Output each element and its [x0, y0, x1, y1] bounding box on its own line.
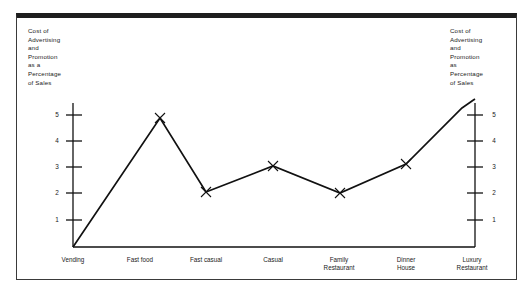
- x-tick-label-casual: Casual: [240, 256, 306, 264]
- y-tick-label-right-4: 4: [487, 137, 501, 144]
- y-tick-label-right-2: 2: [487, 189, 501, 196]
- y-axis-label-right: Cost of Advertising and Promotion as Per…: [450, 27, 518, 87]
- x-tick-label-fast-food: Fast food: [107, 256, 173, 264]
- figure-container: Cost of Advertising and Promotion as a P…: [0, 0, 532, 298]
- y-tick-label-left-3: 3: [50, 163, 64, 170]
- y-axis-label-left: Cost of Advertising and Promotion as a P…: [28, 27, 98, 87]
- y-tick-label-right-3: 3: [487, 163, 501, 170]
- y-tick-label-left-5: 5: [50, 111, 64, 118]
- y-tick-label-left-4: 4: [50, 137, 64, 144]
- x-tick-label-luxury-restaurant: Luxury Restaurant: [439, 256, 505, 273]
- y-tick-label-left-1: 1: [50, 216, 64, 223]
- x-tick-label-fast-casual: Fast casual: [173, 256, 239, 264]
- y-tick-label-left-2: 2: [50, 189, 64, 196]
- y-tick-label-right-1: 1: [487, 216, 501, 223]
- x-tick-label-dinner-house: Dinner House: [373, 256, 439, 273]
- x-tick-label-family-restaurant: Family Restaurant: [306, 256, 372, 273]
- x-tick-label-vending: Vending: [40, 256, 106, 264]
- y-tick-label-right-5: 5: [487, 111, 501, 118]
